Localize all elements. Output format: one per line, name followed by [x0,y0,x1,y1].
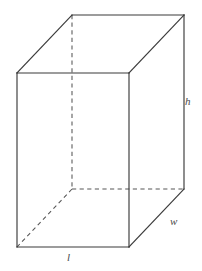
length-label: l [67,252,70,263]
hidden-edges-group [17,15,184,247]
width-label: w [170,216,177,227]
prism-drawing [0,0,202,271]
edge-top-left-depth [17,15,72,73]
hidden-edge-bottom-left-depth [17,189,72,247]
edge-top-right-depth [129,15,184,73]
height-label: h [185,96,191,107]
rectangular-prism-figure: h w l [0,0,202,271]
visible-edges-group [17,15,184,247]
